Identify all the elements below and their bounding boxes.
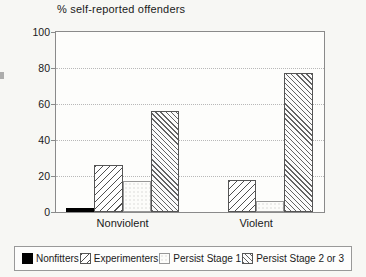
x-category-label-violent: Violent: [239, 217, 272, 229]
y-tick-label-100: 100: [32, 27, 50, 38]
legend-swatch-persist-stage-2-or-3: [242, 253, 253, 264]
legend-item-persist-stage-2-or-3: Persist Stage 2 or 3: [242, 253, 344, 264]
legend-item-experimenters: Experimenters: [80, 253, 158, 264]
bar-experimenters-violent: [228, 180, 256, 212]
legend-label-experimenters: Experimenters: [94, 253, 158, 264]
y-tick-label-0: 0: [44, 207, 50, 218]
legend-swatch-experimenters: [80, 253, 91, 264]
bar-chart-figure: % self-reported offenders 020406080100 N…: [0, 0, 366, 277]
y-tick-label-20: 20: [38, 171, 50, 182]
legend-item-persist-stage-1: Persist Stage 1: [159, 253, 241, 264]
bar-persist-stage-1-nonviolent: [123, 181, 151, 212]
legend-swatch-persist-stage-1: [159, 253, 170, 264]
legend-label-nonfitters: Nonfitters: [36, 253, 79, 264]
chart-title: % self-reported offenders: [57, 3, 185, 15]
gridline-80: [56, 68, 324, 69]
bar-experimenters-nonviolent: [94, 165, 122, 212]
legend: NonfittersExperimentersPersist Stage 1Pe…: [14, 246, 352, 271]
bar-persist-stage-2-or-3-violent: [284, 73, 312, 212]
plot-area: [55, 31, 325, 213]
legend-label-persist-stage-1: Persist Stage 1: [173, 253, 241, 264]
bar-nonfitters-nonviolent: [66, 208, 94, 212]
legend-swatch-nonfitters: [22, 253, 33, 264]
y-tick-label-60: 60: [38, 99, 50, 110]
legend-label-persist-stage-2-or-3: Persist Stage 2 or 3: [256, 253, 344, 264]
x-category-label-nonviolent: Nonviolent: [97, 217, 149, 229]
legend-item-nonfitters: Nonfitters: [22, 253, 79, 264]
bar-persist-stage-2-or-3-nonviolent: [151, 111, 179, 212]
y-tick-label-80: 80: [38, 63, 50, 74]
y-tick-label-40: 40: [38, 135, 50, 146]
y-axis: 020406080100: [0, 0, 50, 277]
bar-persist-stage-1-violent: [256, 201, 284, 212]
